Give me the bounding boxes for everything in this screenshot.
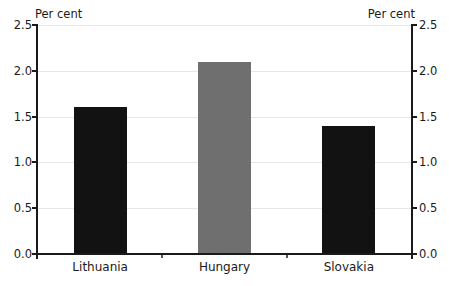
x-category-label: Hungary — [175, 260, 275, 275]
y-axis-left — [36, 24, 38, 259]
y-tick-mark-right — [413, 207, 417, 209]
y-tick-label-left: 0.0 — [6, 246, 32, 262]
x-tick-mark — [286, 255, 288, 258]
bar-slovakia — [322, 126, 375, 254]
y-tick-mark-left — [32, 207, 36, 209]
y-tick-label-left: 1.0 — [6, 154, 32, 170]
y-tick-mark-left — [32, 116, 36, 118]
y-tick-mark-left — [32, 161, 36, 163]
y-tick-label-right: 2.5 — [419, 17, 449, 33]
y-axis-title-left: Per cent — [35, 7, 82, 21]
y-tick-mark-right — [413, 161, 417, 163]
y-axis-title-right: Per cent — [330, 7, 415, 21]
y-tick-label-left: 0.5 — [6, 200, 32, 216]
y-tick-mark-left — [32, 70, 36, 72]
y-tick-mark-right — [413, 70, 417, 72]
x-axis — [36, 253, 413, 255]
gridline — [38, 25, 411, 26]
x-category-label: Lithuania — [50, 260, 150, 275]
bar-chart: Per cent Per cent 0.00.00.50.51.01.01.51… — [0, 0, 449, 286]
x-category-label: Slovakia — [299, 260, 399, 275]
y-tick-label-left: 2.5 — [6, 17, 32, 33]
y-tick-label-right: 0.5 — [419, 200, 449, 216]
y-tick-label-left: 1.5 — [6, 109, 32, 125]
y-tick-mark-right — [413, 24, 417, 26]
bar-lithuania — [74, 107, 127, 254]
bar-hungary — [198, 62, 251, 254]
y-tick-mark-right — [413, 253, 417, 255]
y-tick-label-right: 1.0 — [419, 154, 449, 170]
y-tick-label-left: 2.0 — [6, 63, 32, 79]
y-tick-mark-left — [32, 253, 36, 255]
y-tick-mark-right — [413, 116, 417, 118]
x-tick-mark — [161, 255, 163, 258]
y-tick-label-right: 0.0 — [419, 246, 449, 262]
y-axis-right — [411, 24, 413, 259]
y-tick-label-right: 1.5 — [419, 109, 449, 125]
y-tick-label-right: 2.0 — [419, 63, 449, 79]
y-tick-mark-left — [32, 24, 36, 26]
